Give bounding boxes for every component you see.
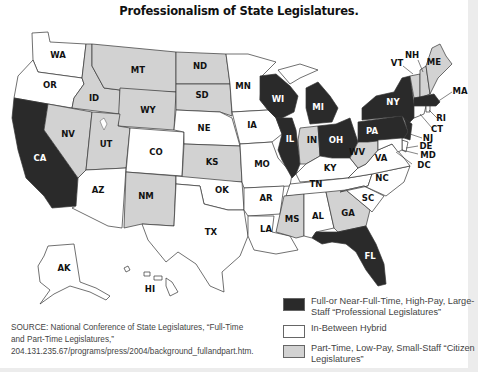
label-id: ID — [89, 93, 99, 103]
label-al: AL — [312, 211, 325, 221]
label-wi: WI — [272, 94, 285, 104]
label-wy: WY — [140, 105, 156, 115]
label-md: MD — [420, 150, 436, 160]
legend-item-citizen: Part-Time, Low-Pay, Small-Staff “Citizen… — [283, 343, 478, 365]
label-mo: MO — [254, 159, 270, 169]
label-dc: DC — [417, 160, 430, 170]
legend-label: In-Between Hybrid — [311, 323, 478, 334]
states — [12, 32, 452, 304]
legend-label: Full-or Near-Full-Time, High-Pay, Large-… — [311, 296, 478, 318]
legend-swatch-white — [283, 325, 305, 338]
label-sc: SC — [362, 193, 374, 203]
label-ri: RI — [436, 113, 446, 123]
label-nv: NV — [61, 129, 75, 139]
label-hi: HI — [145, 284, 155, 294]
label-wa: WA — [50, 50, 66, 60]
label-tx: TX — [205, 227, 218, 237]
label-ks: KS — [206, 157, 219, 167]
label-oh: OH — [329, 135, 343, 145]
label-vt: VT — [391, 58, 404, 68]
state-ak[interactable] — [38, 244, 110, 304]
legend: Full-or Near-Full-Time, High-Pay, Large-… — [283, 296, 478, 370]
legend-item-professional: Full-or Near-Full-Time, High-Pay, Large-… — [283, 296, 478, 318]
label-nd: ND — [193, 61, 207, 71]
label-ut: UT — [100, 139, 113, 149]
label-ma: MA — [452, 86, 467, 96]
label-ms: MS — [285, 214, 300, 224]
label-mn: MN — [235, 81, 251, 91]
label-mt: MT — [131, 65, 145, 75]
label-fl: FL — [364, 251, 376, 261]
label-la: LA — [260, 224, 272, 234]
label-pa: PA — [366, 126, 378, 136]
legend-swatch-gray — [283, 345, 305, 358]
label-nc: NC — [375, 173, 388, 183]
state-ct[interactable] — [414, 106, 426, 118]
legend-swatch-dark — [283, 298, 305, 311]
label-ak: AK — [57, 263, 71, 273]
label-ga: GA — [341, 208, 355, 218]
legend-label: Part-Time, Low-Pay, Small-Staff “Citizen… — [311, 343, 478, 365]
label-or: OR — [43, 80, 57, 90]
label-il: IL — [286, 134, 295, 144]
label-ar: AR — [259, 193, 273, 203]
label-co: CO — [149, 147, 162, 157]
label-wv: WV — [349, 147, 365, 157]
label-sd: SD — [195, 90, 208, 100]
label-in: IN — [307, 135, 317, 145]
label-ky: KY — [324, 163, 338, 173]
label-nh: NH — [405, 50, 419, 60]
label-ny: NY — [386, 97, 400, 107]
source-note: SOURCE: National Conference of State Leg… — [11, 322, 251, 358]
label-ok: OK — [215, 185, 229, 195]
label-me: ME — [427, 57, 441, 67]
label-ia: IA — [247, 120, 257, 130]
label-az: AZ — [92, 185, 105, 195]
label-mi: MI — [312, 102, 324, 112]
state-me[interactable] — [426, 44, 452, 94]
legend-item-hybrid: In-Between Hybrid — [283, 323, 478, 338]
state-ri[interactable] — [426, 106, 430, 112]
label-va: VA — [375, 153, 388, 163]
label-ca: CA — [34, 153, 47, 163]
state-az[interactable] — [72, 168, 126, 228]
label-nm: NM — [138, 191, 154, 201]
label-ne: NE — [198, 123, 211, 133]
label-tn: TN — [310, 179, 323, 189]
